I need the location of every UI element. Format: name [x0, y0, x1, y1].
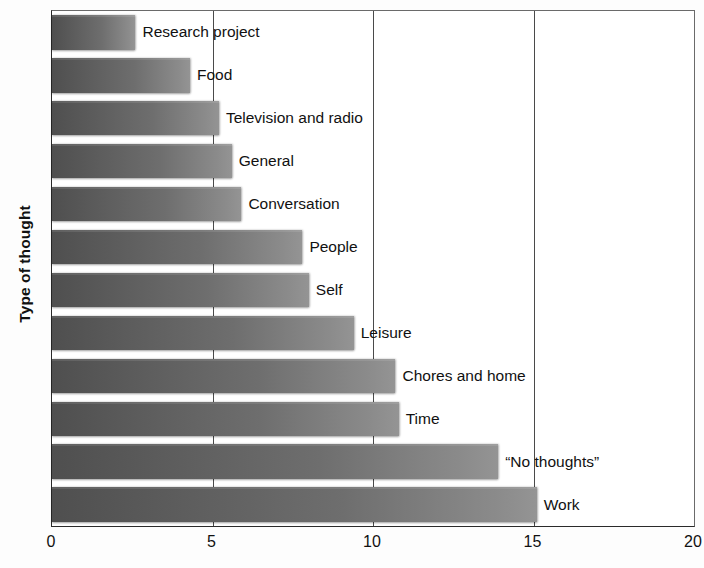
bar-row: Time	[52, 402, 694, 436]
bar-label: Time	[399, 410, 440, 428]
bar-research-project	[52, 15, 135, 49]
x-tick-15: 15	[524, 533, 542, 551]
y-axis-title: Type of thought	[16, 184, 34, 344]
bar-label: Research project	[135, 23, 259, 41]
bar-chores-and-home	[52, 359, 395, 393]
bar-label: Self	[309, 281, 343, 299]
bar-chart: Type of thought Research projectFoodTele…	[0, 0, 704, 568]
bar-label: Leisure	[354, 324, 412, 342]
bar-row: Work	[52, 487, 694, 521]
bar-conversation	[52, 187, 241, 221]
bar-row: Leisure	[52, 316, 694, 350]
bar-label: Chores and home	[395, 367, 525, 385]
bar-row: Self	[52, 273, 694, 307]
bar-time	[52, 402, 399, 436]
bar-food	[52, 58, 190, 92]
bar-row: People	[52, 230, 694, 264]
bar-work	[52, 487, 537, 521]
bar-people	[52, 230, 302, 264]
bar-label: Work	[537, 496, 580, 514]
bar-row: General	[52, 144, 694, 178]
bar-row: Research project	[52, 15, 694, 49]
x-tick-20: 20	[684, 533, 702, 551]
x-tick-10: 10	[363, 533, 381, 551]
bar-self	[52, 273, 309, 307]
bar-leisure	[52, 316, 354, 350]
bar-general	[52, 144, 232, 178]
x-tick-5: 5	[207, 533, 216, 551]
bar-row: Chores and home	[52, 359, 694, 393]
bar-row: Television and radio	[52, 101, 694, 135]
bar-label: “No thoughts”	[498, 453, 599, 471]
bar-label: General	[232, 152, 294, 170]
bar-row: Conversation	[52, 187, 694, 221]
x-tick-0: 0	[47, 533, 56, 551]
bar-label: Food	[190, 66, 232, 84]
plot-area: Research projectFoodTelevision and radio…	[51, 10, 695, 527]
bar-label: People	[302, 238, 357, 256]
bar-television-and-radio	[52, 101, 219, 135]
bar-label: Television and radio	[219, 109, 363, 127]
bar-label: Conversation	[241, 195, 339, 213]
bar-row: “No thoughts”	[52, 444, 694, 478]
bar-series: Research projectFoodTelevision and radio…	[52, 11, 694, 526]
bar-no-thoughts	[52, 444, 498, 478]
bar-row: Food	[52, 58, 694, 92]
